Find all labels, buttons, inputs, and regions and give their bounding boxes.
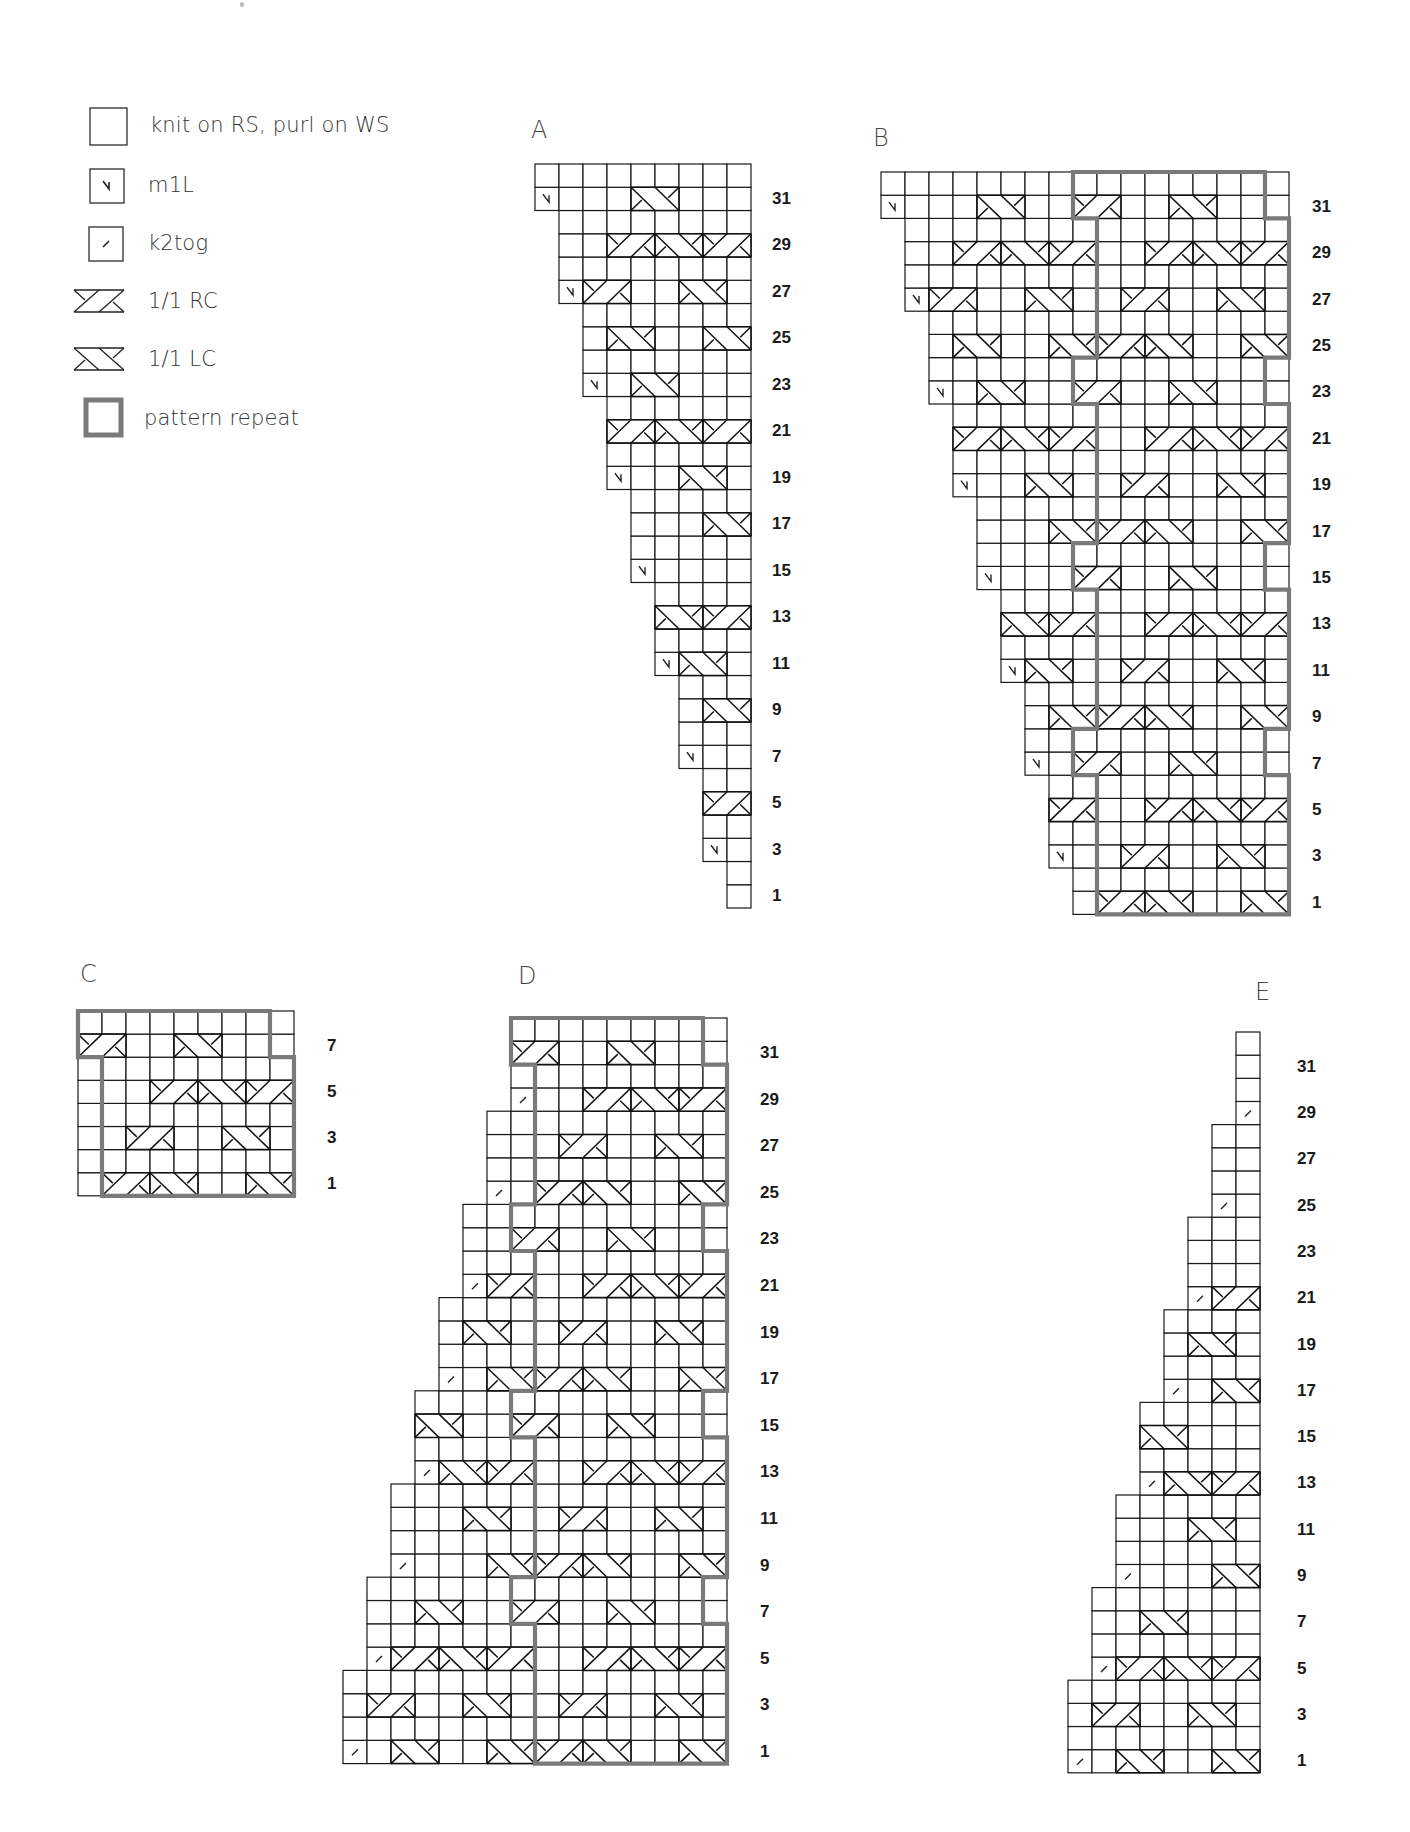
- left-cross-cable-icon: [415, 1414, 463, 1437]
- stitch-cell: [1140, 1588, 1164, 1611]
- legend-item-rc: 1/1 RC: [0, 289, 420, 329]
- row-number-label: 7: [1312, 754, 1321, 774]
- right-cross-cable-icon: [679, 1274, 727, 1297]
- right-cross-cable-icon: [703, 792, 751, 815]
- stitch-cell: [583, 1298, 607, 1321]
- stitch-cell: [511, 1065, 535, 1088]
- right-cross-cable-icon: [583, 1088, 631, 1111]
- stitch-cell: [679, 397, 703, 420]
- right-cross-cable-icon: [1049, 427, 1097, 450]
- stitch-cell: [1217, 381, 1241, 404]
- stitch-cell: [1217, 172, 1241, 195]
- stitch-cell: [655, 1344, 679, 1367]
- stitch-cell: [703, 211, 727, 234]
- left-cross-cable-icon: [1193, 242, 1241, 265]
- stitch-cell: [1049, 450, 1073, 473]
- stitch-cell: [703, 1298, 727, 1321]
- stitch-cell: [583, 1414, 607, 1437]
- stitch-cell: [583, 1437, 607, 1460]
- row-number-label: 19: [760, 1323, 779, 1343]
- stitch-cell: [1097, 682, 1121, 705]
- stitch-cell: [246, 1103, 270, 1126]
- stitch-cell: [655, 257, 679, 280]
- stitch-cell: [1265, 775, 1289, 798]
- stitch-cell: [679, 676, 703, 699]
- stitch-cell: [1097, 868, 1121, 891]
- row-number-label: 27: [1297, 1149, 1316, 1169]
- stitch-cell: [679, 1065, 703, 1088]
- stitch-cell: [703, 1344, 727, 1367]
- stitch-cell: [535, 1274, 559, 1297]
- stitch-cell: [1169, 172, 1193, 195]
- row-number-label: 15: [772, 561, 791, 581]
- stitch-cell: [1073, 311, 1097, 334]
- stitch-cell: [953, 381, 977, 404]
- stitch-cell: [703, 676, 727, 699]
- stitch-cell: [1049, 729, 1073, 752]
- legend-label: 1/1 RC: [148, 289, 218, 313]
- stitch-cell: [703, 1624, 727, 1647]
- stitch-cell: [679, 373, 703, 396]
- stitch-cell: [905, 265, 929, 288]
- stitch-cell: [1025, 358, 1049, 381]
- stitch-cell: [1212, 1611, 1236, 1634]
- stitch-cell: [631, 490, 655, 513]
- stitch-cell: [78, 1103, 102, 1126]
- row-number-label: 11: [1312, 661, 1330, 681]
- stitch-cell: [1169, 497, 1193, 520]
- stitch-cell: [415, 1507, 439, 1530]
- left-cross-cable-icon: [1212, 1750, 1260, 1773]
- stitch-cell: [679, 1228, 703, 1251]
- right-cross-cable-icon: [102, 1173, 150, 1196]
- stitch-cell: [343, 1694, 367, 1717]
- stitch-cell: [655, 443, 679, 466]
- stitch-cell: [1212, 1449, 1236, 1472]
- stitch-cell: [607, 1531, 631, 1554]
- row-number-label: 13: [772, 607, 791, 627]
- stitch-cell: [511, 1577, 535, 1600]
- stitch-cell: [1001, 311, 1025, 334]
- stitch-cell: [1092, 1750, 1116, 1773]
- right-cross-cable-icon: [1121, 659, 1169, 682]
- stitch-cell: [1241, 381, 1265, 404]
- stitch-cell: [1145, 822, 1169, 845]
- stitch-cell: [1265, 845, 1289, 868]
- stitch-cell: [1169, 450, 1193, 473]
- stitch-cell: [126, 1034, 150, 1057]
- stitch-cell: [487, 1437, 511, 1460]
- stitch-cell: [511, 1204, 535, 1227]
- stitch-cell: [583, 1391, 607, 1414]
- stitch-cell: [246, 1150, 270, 1173]
- stitch-cell: [1241, 822, 1265, 845]
- left-cross-cable-icon: [607, 1414, 655, 1437]
- stitch-cell: [559, 1600, 583, 1623]
- stitch-cell: [1188, 1310, 1212, 1333]
- stitch-cell: [559, 1018, 583, 1041]
- stitch-cell: [703, 815, 727, 838]
- left-cross-cable-icon: [463, 1321, 511, 1344]
- left-cross-cable-icon: [1025, 659, 1073, 682]
- stitch-cell: [977, 172, 1001, 195]
- right-cross-cable-icon: [487, 1461, 535, 1484]
- stitch-cell: [631, 1624, 655, 1647]
- stitch-cell: [1217, 891, 1241, 914]
- stitch-cell: [631, 1694, 655, 1717]
- stitch-cell: [1212, 1217, 1236, 1240]
- right-cross-cable-icon: [679, 1647, 727, 1670]
- stitch-cell: [703, 722, 727, 745]
- stitch-cell: [1121, 613, 1145, 636]
- stitch-cell: [703, 164, 727, 187]
- stitch-cell: [511, 1507, 535, 1530]
- stitch-cell: [655, 1065, 679, 1088]
- row-number-label: 17: [1312, 522, 1331, 542]
- stitch-cell: [1097, 311, 1121, 334]
- stitch-cell: [1265, 218, 1289, 241]
- left-cross-cable-icon: [1145, 520, 1193, 543]
- left-cross-cable-icon: [1140, 1426, 1188, 1449]
- stitch-cell: [1097, 729, 1121, 752]
- stitch-cell: [1001, 474, 1025, 497]
- stitch-cell: [1236, 1240, 1260, 1263]
- stitch-cell: [559, 1624, 583, 1647]
- stitch-cell: [150, 1103, 174, 1126]
- stitch-cell: [1212, 1634, 1236, 1657]
